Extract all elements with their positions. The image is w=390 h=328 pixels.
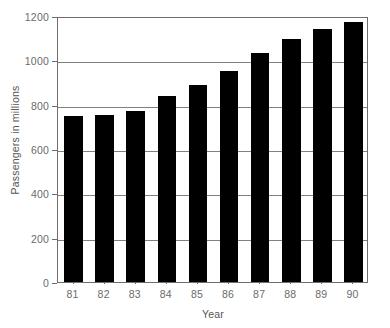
x-tick-label: 90	[346, 288, 358, 300]
x-tick-label: 81	[67, 288, 79, 300]
bar	[282, 39, 301, 282]
bar	[95, 115, 114, 282]
x-tick-label: 82	[98, 288, 110, 300]
x-tick-label: 83	[129, 288, 141, 300]
bar	[158, 96, 177, 282]
bar-chart: Passengers in millions 02004006008001000…	[0, 0, 390, 328]
y-tick-mark	[52, 61, 57, 62]
bar	[220, 71, 239, 282]
y-tick-label: 1000	[5, 55, 49, 67]
bar	[126, 111, 145, 282]
x-tick-label: 84	[160, 288, 172, 300]
y-tick-mark	[52, 239, 57, 240]
bars-layer	[58, 18, 367, 282]
y-tick-label: 0	[5, 277, 49, 289]
x-tick-label: 89	[315, 288, 327, 300]
x-tick-label: 86	[222, 288, 234, 300]
y-tick-label: 800	[5, 100, 49, 112]
y-tick-label: 200	[5, 233, 49, 245]
y-tick-mark	[52, 194, 57, 195]
bar	[251, 53, 270, 282]
y-tick-mark	[52, 106, 57, 107]
bar	[64, 116, 83, 282]
y-tick-label: 400	[5, 188, 49, 200]
y-tick-mark	[52, 17, 57, 18]
x-axis-title: Year	[57, 308, 369, 320]
bar	[313, 29, 332, 282]
bar	[189, 85, 208, 282]
y-tick-mark	[52, 150, 57, 151]
bar	[344, 22, 363, 282]
x-tick-label: 87	[253, 288, 265, 300]
y-axis-title: Passengers in millions	[8, 10, 22, 270]
x-tick-label: 88	[284, 288, 296, 300]
plot-area	[57, 17, 368, 283]
x-tick-label: 85	[191, 288, 203, 300]
y-tick-label: 1200	[5, 11, 49, 23]
y-tick-mark	[52, 283, 57, 284]
y-tick-label: 600	[5, 144, 49, 156]
